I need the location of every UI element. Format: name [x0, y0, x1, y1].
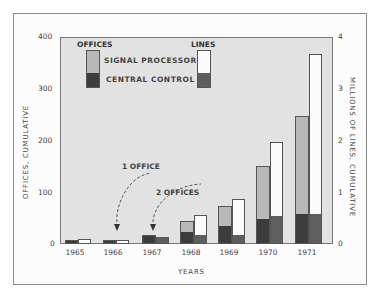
offices-1970-sp [257, 167, 269, 219]
right-tick-label: 0 [338, 239, 343, 248]
bar-offices-1966 [103, 240, 116, 244]
plot-area: OFFICES LINES SIGNAL PROCESSOR CENTRAL C… [60, 37, 333, 244]
offices-1971-cc [296, 214, 308, 243]
bar-lines-1965 [78, 239, 91, 244]
year-label: 1965 [60, 248, 90, 257]
left-tick-label: 300 [38, 84, 52, 93]
year-label: 1966 [98, 248, 128, 257]
right-axis-title: MILLIONS OF LINES, CUMULATIVE [348, 62, 356, 232]
bar-offices-1971 [295, 116, 309, 244]
bar-lines-1969 [232, 199, 245, 244]
x-axis-title: YEARS [178, 268, 205, 276]
annotation-arrows [61, 38, 334, 245]
left-tick-label: 0 [50, 239, 55, 248]
offices-1970-cc [257, 219, 269, 243]
left-tick-label: 400 [38, 32, 52, 41]
offices-1969-cc [219, 226, 231, 243]
bar-lines-1971 [309, 54, 322, 244]
left-axis-title: OFFICES, CUMULATIVE [22, 82, 30, 222]
lines-1971-sp [310, 55, 321, 214]
lines-1969-cc [233, 235, 244, 243]
offices-1968-sp [181, 222, 193, 232]
right-tick-label: 4 [338, 32, 343, 41]
bar-lines-1970 [270, 142, 283, 244]
bar-lines-1967 [156, 237, 169, 244]
lines-1968-cc [195, 235, 206, 243]
lines-1968-sp [195, 216, 206, 235]
offices-1969-sp [219, 207, 231, 226]
lines-1970-cc [271, 216, 282, 243]
right-tick-label: 3 [338, 84, 343, 93]
bar-offices-1970 [256, 166, 270, 244]
lines-1970-sp [271, 143, 282, 216]
left-tick-label: 200 [38, 136, 52, 145]
offices-1968-cc [181, 232, 193, 243]
left-tick-label: 100 [38, 188, 52, 197]
bar-lines-1966 [116, 240, 129, 244]
year-label: 1971 [292, 248, 322, 257]
year-label: 1969 [214, 248, 244, 257]
bar-offices-1965 [65, 240, 78, 244]
right-tick-label: 1 [338, 188, 343, 197]
year-label: 1970 [253, 248, 283, 257]
year-label: 1967 [137, 248, 167, 257]
annotation-1-office: 1 OFFICE [122, 162, 160, 171]
bar-offices-1969 [218, 206, 232, 244]
annotation-2-offices: 2 OFFICES [156, 188, 199, 197]
lines-1971-cc [310, 214, 321, 243]
right-tick-label: 2 [338, 136, 343, 145]
bar-offices-1968 [180, 221, 194, 244]
offices-1971-sp [296, 117, 308, 214]
bar-offices-1967 [142, 235, 156, 244]
year-label: 1968 [176, 248, 206, 257]
bar-lines-1968 [194, 215, 207, 244]
lines-1969-sp [233, 200, 244, 235]
